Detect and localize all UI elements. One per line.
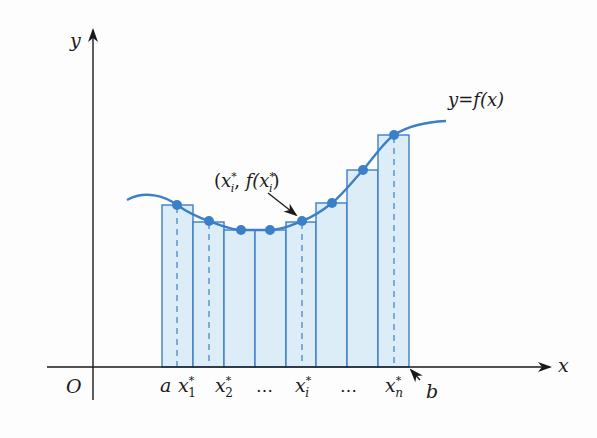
sample-point-n: [389, 130, 399, 140]
sample-point-2: [204, 216, 214, 226]
sample-point-3: [236, 225, 246, 235]
tick-label-ellipsis-2: …: [340, 376, 357, 396]
tick-label-x2: x*2: [215, 374, 233, 400]
b-pointer-arrow: [411, 370, 420, 380]
y-axis-label: y: [69, 29, 81, 51]
annotation-arrow: [268, 193, 296, 215]
riemann-rectangles: [162, 135, 409, 367]
riemann-sum-diagram: y x O y=f(x) (x*i, f(x*i) a x*1 x*2 … x*…: [0, 0, 597, 438]
rectangle-3: [224, 230, 255, 367]
tick-label-x1: x*1: [178, 374, 196, 400]
sample-point-4: [265, 225, 275, 235]
origin-label: O: [66, 375, 82, 397]
rectangle-4: [255, 230, 286, 367]
sample-point-1: [172, 200, 182, 210]
rectangle-6: [316, 203, 347, 367]
b-label: b: [426, 380, 438, 402]
a-label: a: [160, 374, 171, 396]
sample-point-annotation: (x*i, f(x*i): [214, 170, 280, 195]
sample-point-i: [297, 216, 307, 226]
sample-point-7: [358, 165, 368, 175]
rectangle-i: [286, 222, 316, 367]
tick-label-xi: x*i: [295, 374, 312, 400]
sample-point-6: [327, 198, 337, 208]
tick-label-ellipsis-1: …: [256, 376, 273, 396]
tick-label-xn: x*n: [385, 374, 403, 400]
curve-label: y=f(x): [447, 89, 504, 110]
rectangle-7: [347, 170, 378, 367]
x-axis-label: x: [558, 354, 569, 376]
